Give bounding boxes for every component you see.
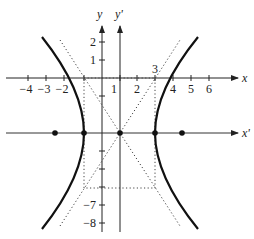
svg-text:2: 2 (134, 82, 140, 96)
svg-text:3: 3 (152, 62, 158, 76)
y-prime-axis-label: y' (114, 7, 123, 21)
svg-text:2: 2 (90, 35, 96, 49)
vertex-left (81, 130, 87, 136)
focus-right (179, 130, 185, 136)
svg-text:−2: −2 (56, 82, 69, 96)
svg-text:−7: −7 (83, 198, 96, 212)
svg-text:−8: −8 (83, 216, 96, 230)
x-axis-label: x (241, 71, 248, 85)
svg-text:−4: −4 (20, 82, 33, 96)
x-prime-axis-label: x' (241, 126, 250, 140)
x-tick-labels: −4 −3 −2 1 2 4 5 6 3 (20, 62, 212, 96)
svg-text:−3: −3 (38, 82, 51, 96)
svg-text:1: 1 (90, 53, 96, 67)
svg-text:1: 1 (111, 82, 117, 96)
svg-text:4: 4 (170, 82, 176, 96)
svg-text:5: 5 (188, 82, 194, 96)
y-axis-label: y (96, 7, 103, 21)
hyperbola-diagram: y y' x x' −4 −3 −2 1 2 4 5 6 3 2 1 −7 −8 (0, 0, 254, 239)
vertex-right (152, 130, 158, 136)
center-point (117, 130, 123, 136)
focus-left (52, 130, 58, 136)
svg-text:6: 6 (206, 82, 212, 96)
